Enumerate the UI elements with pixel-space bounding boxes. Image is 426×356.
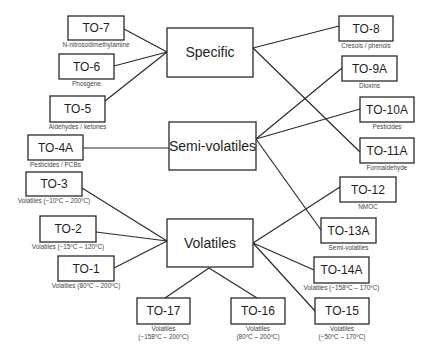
method-description: (−50ºC – 170ºC) <box>319 333 366 341</box>
method-description: NMOC <box>358 203 378 210</box>
method-node-to-9a[interactable]: TO-9ADioxins <box>342 56 397 89</box>
method-code: TO-13A <box>328 224 370 238</box>
method-node-to-5[interactable]: TO-5Aldehydes / ketones <box>49 96 107 131</box>
method-code: TO-6 <box>73 60 100 74</box>
method-code: TO-16 <box>241 304 275 318</box>
edge-to-1-to-volatiles <box>114 241 167 268</box>
category-hubs: SpecificSemi-volatilesVolatiles <box>167 28 256 267</box>
method-description: Pesticides <box>372 123 401 130</box>
method-description: Volatiles <box>330 325 354 332</box>
method-code: TO-12 <box>351 183 385 197</box>
method-code: TO-3 <box>40 177 67 191</box>
method-code: TO-17 <box>147 304 181 318</box>
method-node-to-8[interactable]: TO-8Cresols / phenols <box>339 16 393 50</box>
method-description: (80ºC – 200ºC) <box>236 333 279 341</box>
to-methods-diagram: SpecificSemi-volatilesVolatiles TO-7N-ni… <box>0 0 426 356</box>
method-node-to-10a[interactable]: TO-10APesticides <box>360 97 414 130</box>
method-description: Aldehydes / ketones <box>49 123 107 131</box>
method-description: (−158ºC – 200ºC) <box>138 333 188 341</box>
hub-semi[interactable]: Semi-volatiles <box>169 122 256 170</box>
method-node-to-15[interactable]: TO-15Volatiles(−50ºC – 170ºC) <box>315 298 369 341</box>
method-code: TO-2 <box>54 222 81 236</box>
method-code: TO-4A <box>38 141 73 155</box>
method-code: TO-5 <box>64 102 91 116</box>
method-description: Phosgene <box>72 80 101 88</box>
method-code: TO-11A <box>367 144 408 158</box>
method-node-to-1[interactable]: TO-1Volatiles (80ºC – 200ºC) <box>52 256 121 290</box>
edge-to-7-to-specific <box>124 29 167 52</box>
edge-to-8-to-specific <box>253 26 339 48</box>
method-code: TO-7 <box>82 21 109 35</box>
method-node-to-14a[interactable]: TO-14AVolatiles (−158ºC – 170ºC) <box>304 257 380 292</box>
method-description: Volatiles <box>152 325 176 332</box>
edge-to-9a-to-semi <box>256 68 342 139</box>
method-node-to-6[interactable]: TO-6Phosgene <box>59 54 114 88</box>
method-description: Dioxins <box>359 82 380 89</box>
hub-specific[interactable]: Specific <box>167 28 253 77</box>
method-node-to-2[interactable]: TO-2Volatiles (−15ºC – 120ºC) <box>32 216 104 251</box>
method-description: Formaldehyde <box>367 164 408 172</box>
method-node-to-13a[interactable]: TO-13ASemi-volatiles <box>321 218 376 251</box>
method-node-to-17[interactable]: TO-17Volatiles(−158ºC – 200ºC) <box>137 298 190 341</box>
edge-to-16-to-volatiles <box>209 268 257 298</box>
edge-to-2-to-volatiles <box>96 232 167 241</box>
hub-label: Semi-volatiles <box>169 138 256 154</box>
method-description: Volatiles (−158ºC – 170ºC) <box>304 284 380 292</box>
hub-volatiles[interactable]: Volatiles <box>167 219 253 267</box>
method-description: Pesticides / PCBs <box>30 161 81 168</box>
method-description: Volatiles (−10ºC – 200ºC) <box>18 197 90 205</box>
method-code: TO-1 <box>72 262 99 276</box>
method-code: TO-9A <box>352 62 387 76</box>
method-code: TO-10A <box>366 103 408 117</box>
method-code: TO-15 <box>325 304 359 318</box>
edge-to-14a-to-volatiles <box>253 243 314 270</box>
method-node-to-11a[interactable]: TO-11AFormaldehyde <box>360 138 414 172</box>
method-node-to-12[interactable]: TO-12NMOC <box>340 177 396 210</box>
method-node-to-16[interactable]: TO-16Volatiles(80ºC – 200ºC) <box>231 298 285 341</box>
method-description: Cresols / phenols <box>341 42 390 50</box>
method-description: N-nitrosodimethylamine <box>62 41 130 49</box>
method-node-to-7[interactable]: TO-7N-nitrosodimethylamine <box>62 16 130 49</box>
edge-to-17-to-volatiles <box>165 268 209 298</box>
method-description: Volatiles (−15ºC – 120ºC) <box>32 243 104 251</box>
hub-label: Volatiles <box>184 235 236 251</box>
edge-to-13a-to-semi <box>256 139 321 230</box>
hub-label: Specific <box>185 44 234 60</box>
method-description: Volatiles <box>246 325 270 332</box>
method-node-to-4a[interactable]: TO-4APesticides / PCBs <box>28 135 83 168</box>
method-description: Semi-volatiles <box>329 244 369 251</box>
method-code: TO-14A <box>321 263 363 277</box>
method-code: TO-8 <box>352 22 379 36</box>
method-description: Volatiles (80ºC – 200ºC) <box>52 282 121 290</box>
method-node-to-3[interactable]: TO-3Volatiles (−10ºC – 200ºC) <box>18 172 90 205</box>
edge-to-10a-to-semi <box>256 109 360 139</box>
